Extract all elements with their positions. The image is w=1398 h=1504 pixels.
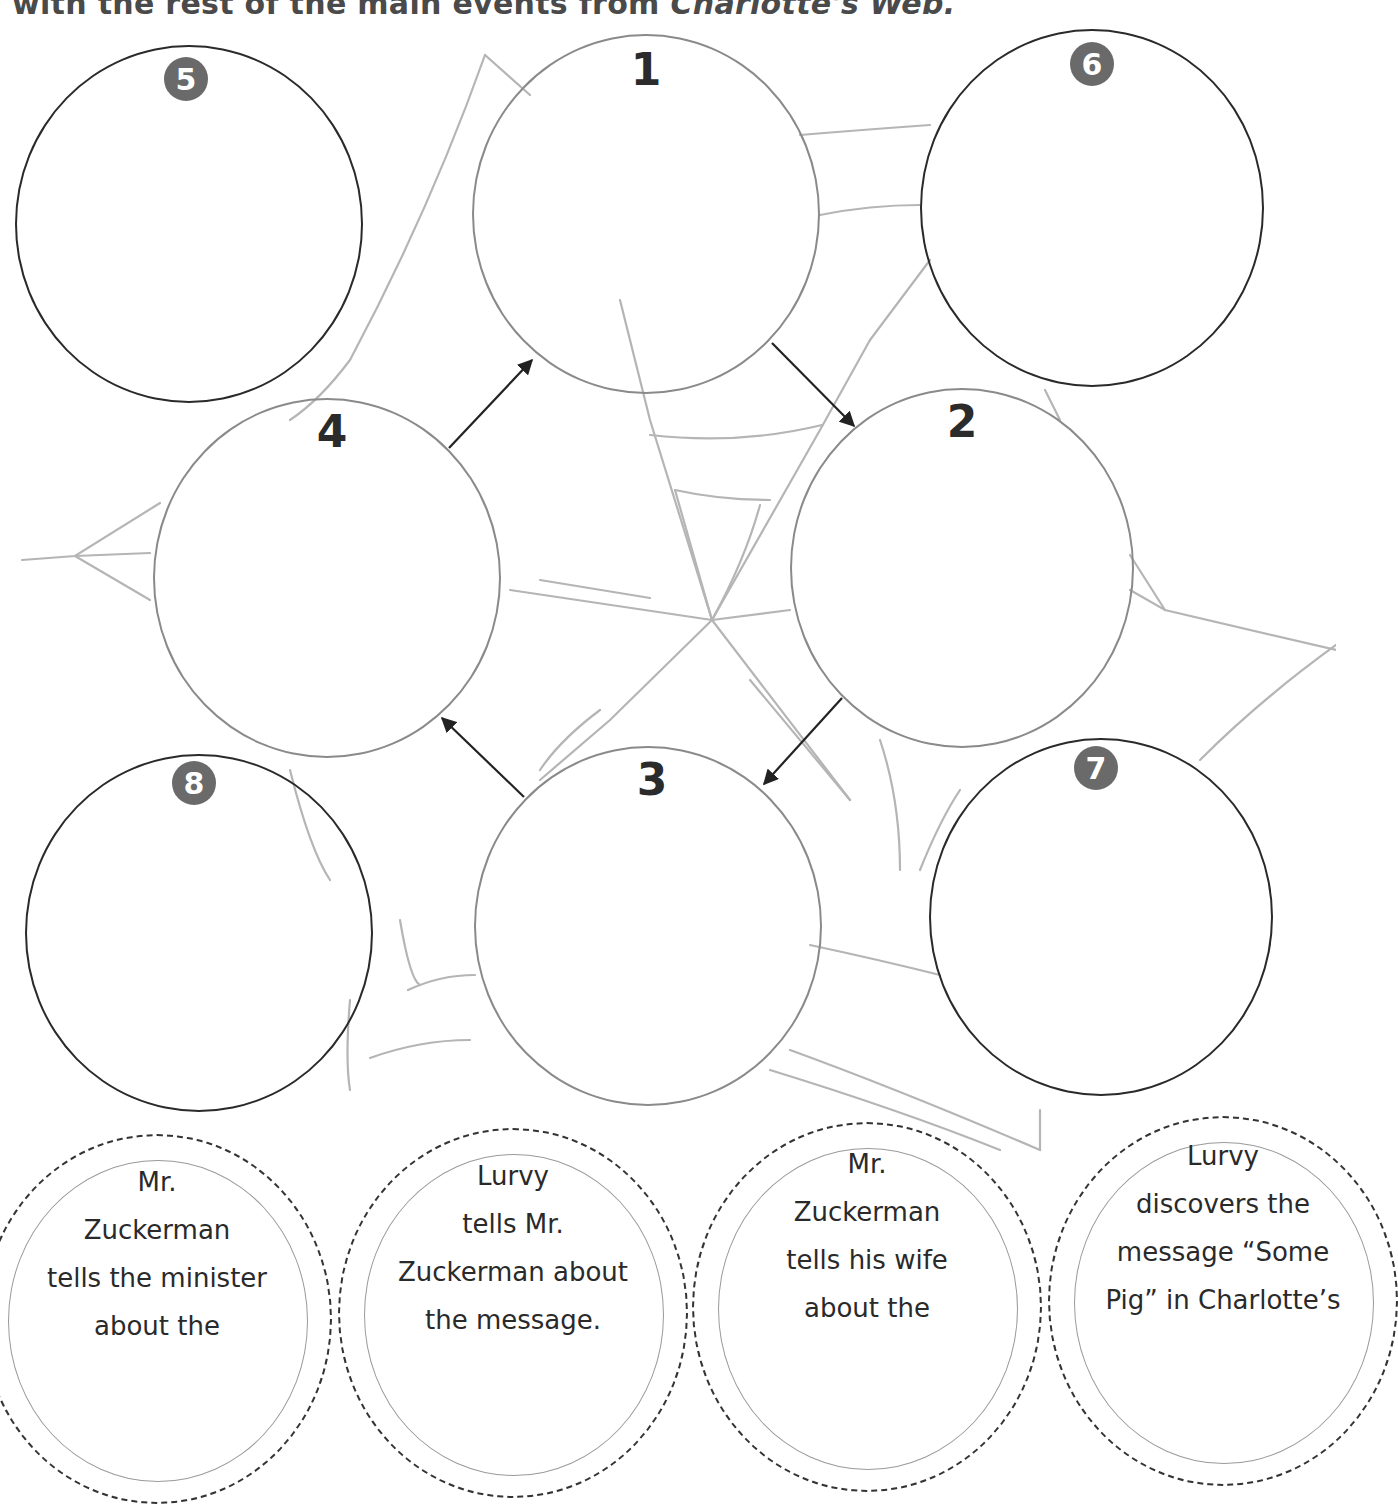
event-card-3[interactable]: Mr. Zuckerman tells his wife about the [692,1122,1042,1492]
event-card-text: Mr. Zuckerman tells his wife about the [694,1140,1040,1332]
card-line: tells the minister [0,1254,330,1302]
event-card-text: Lurvy discovers the message “Some Pig” i… [1050,1132,1396,1324]
card-line: Mr. [694,1140,1040,1188]
circle-number-4: 4 [317,410,348,454]
card-line: message “Some [1050,1228,1396,1276]
event-card-4[interactable]: Lurvy discovers the message “Some Pig” i… [1048,1116,1398,1486]
card-line: tells his wife [694,1236,1040,1284]
arrow-1-to-2 [772,343,854,426]
circle-badge-7: 7 [1074,746,1118,790]
card-line: Zuckerman [0,1206,330,1254]
card-line: about the [694,1284,1040,1332]
card-line: Pig” in Charlotte’s [1050,1276,1396,1324]
event-card-text: Mr. Zuckerman tells the minister about t… [0,1158,330,1350]
circle-number-1: 1 [631,48,662,92]
card-line: about the [0,1302,330,1350]
card-line: tells Mr. [340,1200,686,1248]
circle-badge-8: 8 [172,761,216,805]
card-line: Zuckerman [694,1188,1040,1236]
circle-number-2: 2 [947,400,978,444]
card-line: Lurvy [340,1152,686,1200]
arrow-4-to-1 [449,360,532,448]
event-circle-7[interactable] [929,738,1273,1096]
event-card-1[interactable]: Mr. Zuckerman tells the minister about t… [0,1134,332,1504]
card-line: Mr. [0,1158,330,1206]
circle-badge-6: 6 [1070,42,1114,86]
card-line: Lurvy [1050,1132,1396,1180]
card-line: Zuckerman about [340,1248,686,1296]
arrow-3-to-4 [442,718,524,797]
event-card-2[interactable]: Lurvy tells Mr. Zuckerman about the mess… [338,1128,688,1498]
event-circle-8[interactable] [25,754,373,1112]
event-card-text: Lurvy tells Mr. Zuckerman about the mess… [340,1152,686,1344]
card-line: the message. [340,1296,686,1344]
card-line: discovers the [1050,1180,1396,1228]
circle-badge-5: 5 [164,57,208,101]
circle-number-3: 3 [637,758,668,802]
